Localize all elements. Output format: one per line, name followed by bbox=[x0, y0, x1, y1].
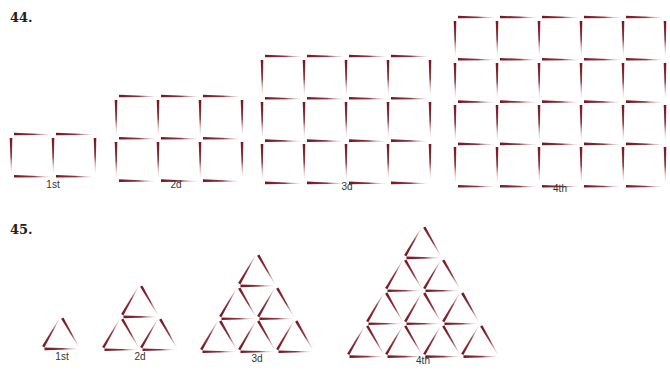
matchstick-right bbox=[295, 320, 313, 349]
square-figure-label-1st: 1st bbox=[46, 179, 59, 190]
square-figure-label-2d: 2d bbox=[170, 179, 181, 190]
matchstick-horizontal bbox=[391, 97, 427, 100]
matchstick-left bbox=[404, 293, 422, 322]
matchstick-horizontal bbox=[542, 16, 578, 19]
triangle-figure-label-3d: 3d bbox=[251, 353, 262, 364]
matchstick-right bbox=[121, 318, 139, 347]
matchstick-horizontal bbox=[626, 58, 662, 61]
matchstick-vertical bbox=[387, 60, 390, 95]
matchstick-vertical bbox=[664, 105, 667, 140]
matchstick-horizontal bbox=[349, 139, 385, 142]
matchstick-left bbox=[385, 260, 403, 289]
matchstick-left bbox=[423, 260, 441, 289]
matchstick-left bbox=[276, 321, 294, 350]
matchstick-horizontal bbox=[265, 139, 301, 142]
matchstick-vertical bbox=[303, 144, 306, 179]
matchstick-horizontal bbox=[265, 55, 301, 58]
matchstick-horizontal bbox=[626, 16, 662, 19]
matchsticks-layer bbox=[10, 16, 667, 358]
matchstick-left bbox=[238, 255, 256, 284]
matchstick-vertical bbox=[622, 21, 625, 56]
matchstick-vertical bbox=[538, 105, 541, 140]
matchstick-vertical bbox=[454, 105, 457, 140]
matchstick-left bbox=[461, 326, 479, 355]
matchstick-left bbox=[238, 321, 256, 350]
matchstick-right bbox=[461, 292, 479, 321]
matchstick-vertical bbox=[157, 100, 160, 135]
matchstick-right bbox=[404, 259, 422, 288]
matchstick-horizontal bbox=[626, 143, 662, 146]
matchstick-right bbox=[276, 287, 294, 316]
matchstick-vertical bbox=[10, 138, 13, 173]
matchstick-base bbox=[350, 355, 383, 358]
matchstick-horizontal bbox=[349, 55, 385, 58]
matchstick-vertical bbox=[454, 63, 457, 98]
matchstick-horizontal bbox=[307, 55, 343, 58]
matchstick-right bbox=[404, 325, 422, 354]
matchstick-vertical bbox=[580, 21, 583, 56]
matchstick-horizontal bbox=[500, 185, 536, 188]
matchstick-vertical bbox=[664, 63, 667, 98]
matchstick-left bbox=[385, 326, 403, 355]
matchstick-horizontal bbox=[500, 143, 536, 146]
matchstick-vertical bbox=[52, 138, 55, 173]
matchstick-right bbox=[385, 292, 403, 321]
matchstick-horizontal bbox=[349, 97, 385, 100]
matchstick-horizontal bbox=[203, 179, 239, 182]
matchstick-horizontal bbox=[203, 95, 239, 98]
matchstick-right bbox=[61, 318, 79, 347]
matchstick-horizontal bbox=[349, 182, 385, 185]
matchstick-vertical bbox=[387, 144, 390, 179]
matchstick-base bbox=[445, 322, 478, 325]
matchstick-vertical bbox=[345, 102, 348, 137]
matchstick-horizontal bbox=[56, 133, 92, 136]
matchstick-vertical bbox=[538, 63, 541, 98]
matchstick-horizontal bbox=[119, 137, 155, 140]
matchstick-horizontal bbox=[458, 143, 494, 146]
matchstick-horizontal bbox=[626, 185, 662, 188]
matchstick-horizontal bbox=[391, 139, 427, 142]
matchstick-vertical bbox=[261, 60, 264, 95]
matchstick-vertical bbox=[115, 100, 118, 135]
matchstick-left bbox=[347, 326, 365, 355]
matchstick-base bbox=[407, 322, 440, 325]
matchstick-horizontal bbox=[56, 175, 92, 178]
matchstick-vertical bbox=[538, 21, 541, 56]
matchstick-vertical bbox=[580, 147, 583, 182]
matchstick-vertical bbox=[429, 102, 432, 137]
matchstick-vertical bbox=[622, 105, 625, 140]
matchstick-right bbox=[480, 325, 498, 354]
matchstick-base bbox=[203, 350, 236, 353]
matchstick-base bbox=[279, 350, 312, 353]
matchstick-base bbox=[426, 355, 459, 358]
matchstick-right bbox=[140, 286, 158, 315]
matchstick-left bbox=[102, 319, 120, 348]
triangle-figure-label-1st: 1st bbox=[55, 351, 68, 362]
matchstick-horizontal bbox=[14, 133, 50, 136]
matchstick-vertical bbox=[94, 138, 97, 173]
matchstick-right bbox=[366, 325, 384, 354]
square-figure-label-3d: 3d bbox=[341, 181, 352, 192]
matchstick-horizontal bbox=[542, 58, 578, 61]
matchstick-vertical bbox=[454, 21, 457, 56]
matchstick-horizontal bbox=[458, 58, 494, 61]
matchstick-horizontal bbox=[307, 97, 343, 100]
matchstick-horizontal bbox=[307, 139, 343, 142]
matchstick-horizontal bbox=[500, 58, 536, 61]
matchstick-horizontal bbox=[626, 100, 662, 103]
square-figure-label-4th: 4th bbox=[553, 183, 567, 194]
matchstick-base bbox=[45, 348, 78, 351]
matchstick-vertical bbox=[241, 100, 244, 135]
matchstick-vertical bbox=[345, 60, 348, 95]
matchstick-vertical bbox=[496, 147, 499, 182]
matchstick-base bbox=[388, 290, 421, 293]
matchstick-diagram bbox=[0, 0, 670, 376]
matchstick-left bbox=[121, 286, 139, 315]
matchstick-vertical bbox=[538, 147, 541, 182]
matchstick-base bbox=[407, 257, 440, 260]
matchstick-right bbox=[442, 259, 460, 288]
matchstick-right bbox=[159, 318, 177, 347]
matchstick-base bbox=[124, 316, 157, 319]
matchstick-horizontal bbox=[161, 95, 197, 98]
matchstick-horizontal bbox=[542, 100, 578, 103]
